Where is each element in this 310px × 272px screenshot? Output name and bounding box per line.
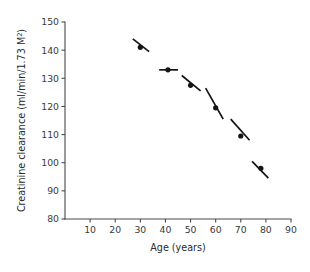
x-tick-label: 60: [210, 224, 222, 235]
y-tick-label: 110: [41, 129, 59, 140]
scatter-plot: 8090100110120130140150 10203040506070809…: [0, 0, 310, 272]
y-tick-label: 100: [41, 157, 59, 168]
x-tick-label: 70: [235, 224, 247, 235]
data-point: [213, 105, 218, 110]
data-point: [138, 45, 143, 50]
y-axis-title-main: Creatinine clearance (ml/min/1.73 M: [16, 37, 27, 212]
data-point: [165, 67, 170, 72]
slope-segment: [206, 88, 224, 119]
data-points-group: [133, 39, 269, 178]
y-tick-label: 150: [41, 16, 59, 27]
x-tick-label: 20: [109, 224, 121, 235]
x-tick-label: 80: [260, 224, 272, 235]
y-tick-label: 80: [47, 213, 59, 224]
y-axis-title-tail: ): [16, 29, 27, 33]
x-tick-label: 10: [84, 224, 96, 235]
y-axis-title-text: Creatinine clearance (ml/min/1.73 M2): [16, 29, 27, 212]
y-axis-ticks: 8090100110120130140150: [41, 16, 65, 224]
data-point: [188, 83, 193, 88]
data-point: [258, 166, 263, 171]
x-tick-label: 50: [185, 224, 197, 235]
chart-figure: 8090100110120130140150 10203040506070809…: [0, 0, 310, 272]
x-axis-title: Age (years): [150, 242, 206, 253]
plot-axes: [65, 22, 291, 219]
y-tick-label: 140: [41, 45, 59, 56]
x-tick-label: 40: [160, 224, 172, 235]
x-tick-label: 30: [134, 224, 146, 235]
x-axis-ticks: 102030405060708090: [84, 219, 297, 235]
y-tick-label: 90: [47, 185, 59, 196]
y-tick-label: 130: [41, 73, 59, 84]
y-axis-title: Creatinine clearance (ml/min/1.73 M2): [16, 29, 27, 212]
x-tick-label: 90: [285, 224, 297, 235]
data-point: [238, 133, 243, 138]
y-tick-label: 120: [41, 101, 59, 112]
